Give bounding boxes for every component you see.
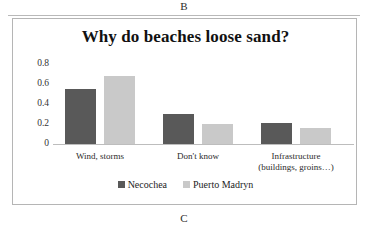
panel-letter-b: B: [164, 0, 204, 12]
legend-item-necochea: Necochea: [118, 179, 167, 190]
chart-legend: NecocheaPuerto Madryn: [13, 179, 358, 190]
bar-puerto-madryn: [300, 128, 331, 144]
bar-puerto-madryn: [202, 124, 233, 144]
y-axis-tick-label: 0.4: [15, 98, 49, 108]
bar-necochea: [261, 123, 292, 144]
x-axis-category-label-line: Infrastructure: [248, 151, 344, 162]
legend-label: Necochea: [128, 179, 167, 190]
legend-item-puerto-madryn: Puerto Madryn: [183, 179, 253, 190]
panel-letter-c: C: [164, 212, 204, 224]
y-axis-tick-label: 0.2: [15, 118, 49, 128]
x-axis-category-label: Wind, storms: [52, 151, 148, 162]
y-axis-tick-label: 0: [15, 138, 49, 148]
x-axis-category-label-line: (buildings, groins…): [248, 162, 344, 173]
x-axis-category-label: Don't know: [150, 151, 246, 162]
bar-necochea: [65, 89, 96, 144]
panel-divider-rule: [8, 15, 360, 16]
y-axis-tick-label: 0.8: [15, 58, 49, 68]
bar-necochea: [163, 114, 194, 144]
x-axis-category-label-line: Don't know: [150, 151, 246, 162]
bar-puerto-madryn: [104, 76, 135, 144]
y-axis-tick-label: 0.6: [15, 78, 49, 88]
legend-swatch-icon: [183, 181, 190, 188]
plot-area: 0.80.60.40.20Wind, stormsDon't knowInfra…: [13, 19, 358, 206]
legend-swatch-icon: [118, 181, 125, 188]
x-axis-category-label-line: Wind, storms: [52, 151, 148, 162]
x-axis-baseline: [53, 144, 354, 145]
x-axis-category-label: Infrastructure(buildings, groins…): [248, 151, 344, 173]
legend-label: Puerto Madryn: [193, 179, 253, 190]
chart-panel: Why do beaches loose sand? 0.80.60.40.20…: [12, 18, 357, 205]
